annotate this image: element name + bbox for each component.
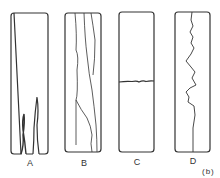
panel-label-a: A <box>20 158 40 168</box>
panel-d <box>175 12 210 152</box>
panel-label-d: D <box>183 156 203 166</box>
panel-label-b: B <box>74 158 94 168</box>
panel-c <box>119 12 154 152</box>
panel-label-c: C <box>127 157 147 167</box>
figure-tag: (b) <box>202 167 215 176</box>
diagram-canvas <box>0 0 220 178</box>
panel-b <box>65 13 101 152</box>
panel-a <box>11 13 48 154</box>
